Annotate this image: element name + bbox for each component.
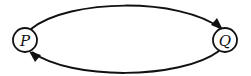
node-q-label: Q [219, 32, 231, 50]
node-p: P [13, 28, 37, 52]
node-p-label: P [19, 32, 31, 50]
edge-q-to-p [32, 51, 219, 73]
edge-p-to-q [31, 6, 220, 29]
arrowhead-q-to-p-icon [29, 51, 41, 62]
diagram-canvas: P Q [0, 0, 251, 76]
node-q: Q [213, 28, 237, 52]
